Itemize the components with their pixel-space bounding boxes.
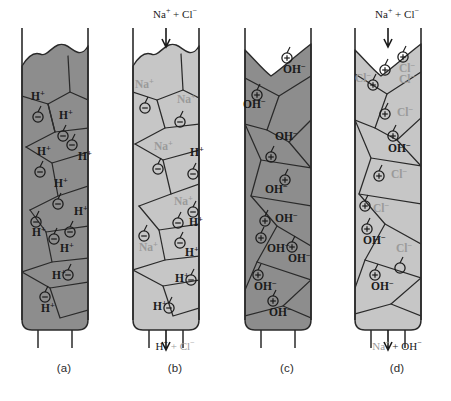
outlet-label: H+ + Cl− xyxy=(119,340,231,352)
outlet-species: + Cl− xyxy=(168,340,195,352)
column-panel-c: OH−OH−OH−OH−OH−OH−OH−OH−OH−(c) xyxy=(231,0,343,401)
column-panel-b: Na+Na+Na+H+Na+H+Na+H+H+H+Na+ + Cl−H+ + C… xyxy=(119,0,231,401)
panel-caption-c: (c) xyxy=(231,362,343,374)
feed-label: Na+ + Cl− xyxy=(341,8,451,20)
feed-species: + Cl− xyxy=(170,8,197,20)
feed-species: Na+ xyxy=(153,8,170,20)
ion-exchange-figure: H+H+H+H+H+H+H+H+H+H+(a)Na+Na+Na+H+Na+H+N… xyxy=(0,0,451,401)
column-panel-a: H+H+H+H+H+H+H+H+H+H+(a) xyxy=(8,0,120,401)
column-panel-d: Cl−Cl−Cl−Cl−OH−Cl−Cl−OH−Cl−OH−Na+ + Cl−N… xyxy=(341,0,451,401)
panel-caption-a: (a) xyxy=(8,362,120,374)
feed-arrow xyxy=(162,28,170,47)
panel-caption-b: (b) xyxy=(119,362,231,374)
feed-species: + Cl− xyxy=(392,8,419,20)
ion-label: H+ xyxy=(78,148,92,162)
ion-label: H+ xyxy=(190,144,204,158)
outlet-label: Na+ + OH− xyxy=(341,340,451,352)
outlet-species: H+ xyxy=(156,340,168,352)
feed-species: Na+ xyxy=(375,8,392,20)
outlet-species: Na+ xyxy=(372,340,389,352)
outlet-species: + OH− xyxy=(390,340,422,352)
panel-caption-d: (d) xyxy=(341,362,451,374)
feed-label: Na+ + Cl− xyxy=(119,8,231,20)
ion-label: H+ xyxy=(189,214,203,228)
feed-arrow xyxy=(384,28,392,47)
